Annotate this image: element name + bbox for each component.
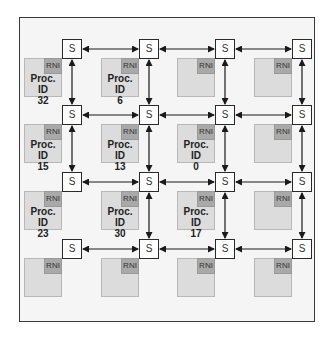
processing-element-r3c3: RNI <box>254 258 292 297</box>
rni-label: RNI <box>121 124 139 140</box>
switch-r2c1: S <box>139 172 159 192</box>
proc-id-label: Proc. ID17 <box>178 206 214 239</box>
processing-element-r3c2: RNI <box>177 258 215 297</box>
switch-r3c0: S <box>62 239 82 259</box>
switch-r0c0: S <box>62 39 82 59</box>
processing-element-r0c3: RNI <box>254 58 292 97</box>
proc-id-label: Proc. ID23 <box>25 206 61 239</box>
proc-id-label: Proc. ID13 <box>102 139 138 172</box>
processing-element-r3c1: RNI <box>101 258 139 297</box>
rni-label: RNI <box>44 258 62 274</box>
processing-element-r2c1: RNIProc. ID30 <box>101 191 139 230</box>
rni-label: RNI <box>197 258 215 274</box>
proc-id-label: Proc. ID0 <box>178 139 214 172</box>
switch-r1c3: S <box>292 105 312 125</box>
switch-r0c2: S <box>215 39 235 59</box>
rni-label: RNI <box>121 191 139 207</box>
processing-element-r0c0: RNIProc. ID32 <box>24 58 62 97</box>
switch-r2c3: S <box>292 172 312 192</box>
proc-id-label: Proc. ID6 <box>102 73 138 106</box>
rni-label: RNI <box>274 124 292 140</box>
switch-r2c2: S <box>215 172 235 192</box>
processing-element-r1c1: RNIProc. ID13 <box>101 124 139 163</box>
rni-label: RNI <box>197 191 215 207</box>
rni-label: RNI <box>44 124 62 140</box>
processing-element-r1c3: RNI <box>254 124 292 163</box>
proc-id-label: Proc. ID30 <box>102 206 138 239</box>
switch-r3c1: S <box>139 239 159 259</box>
processing-element-r0c2: RNI <box>177 58 215 97</box>
processing-element-r1c0: RNIProc. ID15 <box>24 124 62 163</box>
processing-element-r2c0: RNIProc. ID23 <box>24 191 62 230</box>
switch-r1c2: S <box>215 105 235 125</box>
processing-element-r1c2: RNIProc. ID0 <box>177 124 215 163</box>
switch-r1c1: S <box>139 105 159 125</box>
processing-element-r3c0: RNI <box>24 258 62 297</box>
proc-id-label: Proc. ID15 <box>25 139 61 172</box>
rni-label: RNI <box>121 58 139 74</box>
rni-label: RNI <box>44 58 62 74</box>
rni-label: RNI <box>197 58 215 74</box>
proc-id-label: Proc. ID32 <box>25 73 61 106</box>
rni-label: RNI <box>44 191 62 207</box>
processing-element-r2c3: RNI <box>254 191 292 230</box>
processing-element-r2c2: RNIProc. ID17 <box>177 191 215 230</box>
switch-r0c3: S <box>292 39 312 59</box>
switch-r3c2: S <box>215 239 235 259</box>
switch-r1c0: S <box>62 105 82 125</box>
rni-label: RNI <box>197 124 215 140</box>
rni-label: RNI <box>274 191 292 207</box>
switch-r0c1: S <box>139 39 159 59</box>
switch-r2c0: S <box>62 172 82 192</box>
rni-label: RNI <box>274 258 292 274</box>
rni-label: RNI <box>274 58 292 74</box>
switch-r3c3: S <box>292 239 312 259</box>
processing-element-r0c1: RNIProc. ID6 <box>101 58 139 97</box>
rni-label: RNI <box>121 258 139 274</box>
